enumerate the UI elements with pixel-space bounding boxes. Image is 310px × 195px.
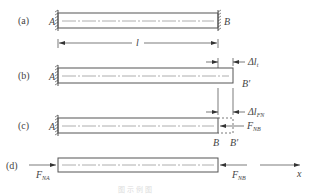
beam-a	[58, 13, 218, 28]
label-c-bprime: B′	[230, 137, 239, 148]
panel-b-label: (b)	[18, 70, 30, 82]
force-label-c: FNB	[246, 120, 261, 132]
label-b-left: A	[48, 71, 56, 82]
dashed-extension-c	[218, 118, 233, 133]
panel-d: (d) FNA FNB x	[6, 158, 302, 181]
thermal-stress-diagram: (a) A B	[0, 0, 310, 195]
x-axis-label: x	[296, 168, 302, 179]
label-a-left: A	[48, 16, 56, 27]
force-label-nb: FNB	[231, 169, 246, 181]
label-c-b: B	[213, 137, 219, 148]
panel-d-label: (d)	[6, 160, 18, 172]
panel-c: (c) A ΔlFN FNB B B′	[18, 106, 265, 148]
delta-label-b: Δlt	[247, 56, 259, 68]
delta-label-c: ΔlFN	[247, 106, 265, 118]
panel-a-label: (a)	[18, 15, 29, 27]
dimension-label-l: l	[136, 37, 139, 48]
label-b-right: B′	[242, 78, 251, 89]
beam-b	[58, 68, 233, 83]
figure-caption: 图 示 例 图	[118, 185, 152, 194]
label-a-right: B	[224, 16, 230, 27]
panel-c-label: (c)	[18, 120, 29, 132]
panel-b: (b) A B′ Δlt	[18, 56, 259, 115]
label-c-left: A	[48, 121, 56, 132]
force-label-na: FNA	[35, 169, 50, 181]
beam-c	[58, 118, 218, 133]
delta-lt-dimension-icon	[206, 58, 245, 115]
panel-a: (a) A B	[18, 10, 230, 48]
fixed-support-right-icon	[218, 10, 221, 31]
